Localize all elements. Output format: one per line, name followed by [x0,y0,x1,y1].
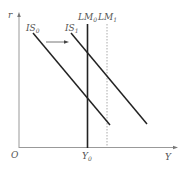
x-axis-arrow-icon [173,146,178,150]
is0-label: IS0 [25,23,40,34]
x-axis [19,146,178,150]
y-axis-label: r [8,10,13,20]
y0-tick-label: Y0 [82,151,92,162]
origin-label: O [11,150,19,160]
lm1-label: LM1 [97,12,117,23]
shift-arrow-icon [46,40,69,43]
lm0-label: LM0 [77,12,97,23]
is0-curve [33,33,110,125]
is1-label: IS1 [64,23,79,34]
y-axis-arrow-icon [17,12,21,17]
y-axis [17,12,21,148]
x-axis-label: Y [165,152,172,162]
is-lm-diagram: r Y O IS0 IS1 LM0 LM1 Y0 [0,0,187,171]
is1-curve [71,33,147,124]
